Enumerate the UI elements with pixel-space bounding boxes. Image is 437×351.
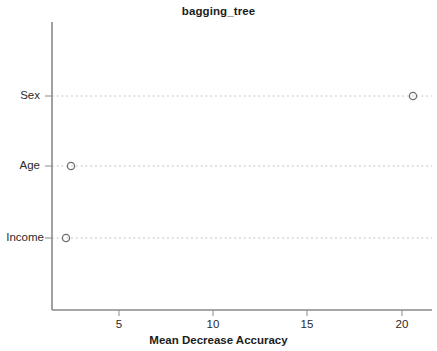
x-axis-ticks xyxy=(119,310,402,316)
data-point-income[interactable] xyxy=(62,234,69,241)
y-axis-ticks xyxy=(45,96,52,238)
x-tick-label-5: 5 xyxy=(99,318,139,330)
y-tick-label-income: Income xyxy=(0,231,44,243)
gridlines xyxy=(52,96,432,238)
plot-area xyxy=(0,0,437,351)
x-tick-label-15: 15 xyxy=(287,318,327,330)
y-tick-label-age: Age xyxy=(0,159,40,171)
y-tick-label-sex: Sex xyxy=(0,89,40,101)
x-tick-label-20: 20 xyxy=(382,318,422,330)
x-axis-title: Mean Decrease Accuracy xyxy=(0,334,437,346)
chart-container: bagging_tree Sex xyxy=(0,0,437,351)
data-points xyxy=(62,92,416,241)
data-point-age[interactable] xyxy=(67,162,74,169)
x-tick-label-10: 10 xyxy=(193,318,233,330)
